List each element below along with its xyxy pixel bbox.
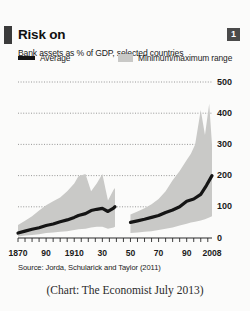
minmax-band bbox=[18, 174, 115, 236]
legend-label-range: Minimum/maximum range bbox=[138, 53, 232, 63]
y-axis-tick-label: 0 bbox=[217, 234, 222, 243]
x-axis-tick-label: 50 bbox=[126, 249, 136, 258]
y-axis-tick-label: 300 bbox=[217, 140, 232, 149]
figure-caption: (Chart: The Economist July 2013) bbox=[0, 284, 250, 296]
chart-canvas bbox=[0, 78, 250, 248]
x-axis-tick-label: 30 bbox=[98, 249, 108, 258]
minmax-band bbox=[130, 104, 212, 233]
legend-label-average: Average bbox=[40, 53, 70, 63]
x-axis-tick-label: 2008 bbox=[202, 249, 221, 258]
chart-plot-area: 0100200300400500 bbox=[0, 78, 250, 248]
economist-chart-card: Risk on 1 Bank assets as % of GDP, selec… bbox=[0, 0, 250, 278]
source-note: Source: Jorda, Schularick and Taylor (20… bbox=[18, 263, 161, 272]
x-axis-tick-labels: 1870901910305070902008 bbox=[0, 249, 250, 263]
y-axis-tick-label: 500 bbox=[217, 78, 232, 87]
legend-line-swatch-icon bbox=[18, 56, 35, 60]
y-axis-tick-label: 200 bbox=[217, 171, 232, 180]
chart-page: Risk on 1 Bank assets as % of GDP, selec… bbox=[0, 0, 250, 311]
x-axis-tick-label: 1870 bbox=[8, 249, 27, 258]
page-title: Risk on bbox=[18, 28, 65, 42]
axis-group bbox=[18, 238, 212, 242]
x-axis-tick-label: 70 bbox=[154, 249, 164, 258]
x-axis-tick-label: 90 bbox=[182, 249, 192, 258]
chart-legend: Average Minimum/maximum range bbox=[18, 53, 244, 67]
legend-item-average: Average bbox=[18, 53, 70, 63]
brand-accent-bar bbox=[4, 26, 12, 44]
minmax-band-group bbox=[18, 104, 212, 237]
legend-item-range: Minimum/maximum range bbox=[118, 53, 232, 63]
legend-band-swatch-icon bbox=[118, 54, 133, 62]
x-axis-tick-label: 90 bbox=[41, 249, 51, 258]
x-axis-tick-label: 1910 bbox=[65, 249, 84, 258]
y-axis-tick-label: 400 bbox=[217, 109, 232, 118]
y-axis-tick-label: 100 bbox=[217, 202, 232, 211]
status-badge: 1 bbox=[227, 28, 240, 41]
